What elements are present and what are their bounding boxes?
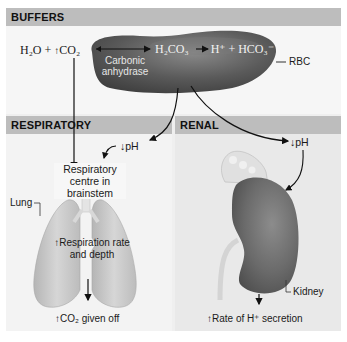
product-plus: + — [228, 42, 235, 56]
respiration-effect-line1: ↑Respiration rate — [50, 237, 134, 249]
co2-formula: CO₂ — [59, 43, 80, 57]
respiration-effect-line2: and depth — [50, 249, 134, 261]
kidney-label: Kidney — [293, 286, 324, 298]
kidney-icon — [220, 151, 299, 300]
lung-label: Lung — [10, 197, 32, 209]
enzyme-label-line1: Carbonic — [100, 55, 150, 66]
respiratory-centre-line1: Respiratory — [54, 163, 126, 175]
renal-ph-indicator: ↓pH — [290, 136, 309, 148]
respiratory-centre-line3: brainstem — [54, 187, 126, 199]
rbc-label: RBC — [289, 56, 310, 68]
hydrogen-ion: H⁺ — [211, 42, 226, 56]
h-secretion-label: ↑Rate of H⁺ secretion — [207, 313, 303, 325]
water-formula: H₂O — [20, 43, 42, 57]
co2-given-off-label: ↑CO₂ given off — [55, 313, 119, 325]
equation-products: H₂CO₃ H⁺ + HCO₃⁻ — [155, 43, 274, 55]
respiratory-centre-label: Respiratory centre in brainstem — [54, 163, 126, 199]
respiratory-ph-indicator: ↓pH — [120, 140, 139, 152]
equation-reactants: H₂O + ↑CO₂ — [20, 44, 80, 57]
enzyme-label-line2: anhydrase — [100, 66, 150, 77]
plus-sign: + — [45, 43, 52, 57]
respiratory-centre-line2: centre in — [54, 175, 126, 187]
respiration-effect-label: ↑Respiration rate and depth — [50, 237, 134, 261]
carbonic-acid-formula: H₂CO₃ — [155, 42, 189, 56]
enzyme-label: Carbonic anhydrase — [100, 55, 150, 77]
bicarbonate-ion: HCO₃⁻ — [238, 42, 274, 56]
